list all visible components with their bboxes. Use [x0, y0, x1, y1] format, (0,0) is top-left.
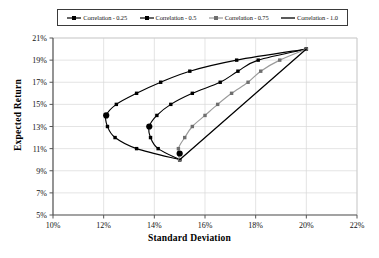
x-axis-tick-label: 10%	[46, 221, 61, 230]
data-point-marker	[183, 136, 186, 139]
chart-container: 5%7%9%11%13%15%17%19%21%10%12%14%16%18%2…	[0, 0, 379, 258]
x-axis-tick-label: 20%	[299, 221, 314, 230]
data-point-marker	[219, 81, 222, 84]
data-point-marker	[155, 114, 158, 117]
legend-item-0[interactable]: Correlation - 0.25	[67, 14, 127, 22]
data-point-marker	[156, 147, 159, 150]
legend-item-2[interactable]: Correlation - 0.75	[209, 14, 269, 22]
y-axis-tick-label: 7%	[36, 189, 47, 198]
y-axis-tick-label: 21%	[32, 34, 47, 43]
y-axis-title: Expected Return	[13, 45, 23, 185]
legend-label-1: Correlation - 0.5	[156, 14, 197, 21]
x-axis-tick-label: 16%	[198, 221, 213, 230]
x-axis-tick-label: 18%	[248, 221, 263, 230]
y-axis-tick-label: 19%	[32, 56, 47, 65]
legend-swatch-0	[67, 14, 81, 22]
y-axis-tick-label: 15%	[32, 100, 47, 109]
data-point-marker	[159, 81, 162, 84]
chart-legend: Correlation - 0.25 Correlation - 0.5 Cor…	[57, 9, 348, 26]
y-axis-tick-label: 5%	[36, 211, 47, 220]
data-point-marker	[216, 103, 219, 106]
x-axis-tick-label: 14%	[147, 221, 162, 230]
data-point-marker	[203, 114, 206, 117]
data-point-marker	[230, 92, 233, 95]
highlight-point-marker	[146, 123, 152, 129]
legend-swatch-1	[140, 14, 154, 22]
data-point-marker	[259, 69, 262, 72]
legend-swatch-3	[281, 14, 295, 22]
legend-swatch-2	[209, 14, 223, 22]
data-point-marker	[246, 81, 249, 84]
data-point-marker	[257, 58, 260, 61]
convergence-marker	[177, 150, 183, 156]
data-point-marker	[135, 147, 138, 150]
legend-label-2: Correlation - 0.75	[225, 14, 269, 21]
data-point-marker	[135, 92, 138, 95]
data-point-marker	[106, 125, 109, 128]
x-axis-tick-label: 12%	[96, 221, 111, 230]
grid-lines	[53, 38, 357, 215]
data-point-marker	[149, 136, 152, 139]
data-point-marker	[113, 136, 116, 139]
data-point-marker	[177, 147, 180, 150]
highlight-point-marker	[103, 112, 109, 118]
data-point-marker	[191, 125, 194, 128]
data-point-marker	[278, 58, 281, 61]
data-point-marker	[115, 103, 118, 106]
data-point-marker	[191, 92, 194, 95]
x-axis-title: Standard Deviation	[0, 233, 379, 243]
legend-label-3: Correlation - 1.0	[297, 14, 338, 21]
legend-item-1[interactable]: Correlation - 0.5	[140, 14, 197, 22]
y-axis-tick-label: 9%	[36, 167, 47, 176]
y-axis-tick-label: 17%	[32, 78, 47, 87]
data-point-marker	[169, 103, 172, 106]
y-axis-tick-label: 11%	[33, 145, 48, 154]
data-point-marker	[235, 58, 238, 61]
x-axis-tick-label: 22%	[350, 221, 365, 230]
y-axis-tick-label: 13%	[32, 123, 47, 132]
legend-label-0: Correlation - 0.25	[83, 14, 127, 21]
legend-item-3[interactable]: Correlation - 1.0	[281, 14, 338, 22]
data-point-marker	[236, 69, 239, 72]
efficient-frontier-plot: 5%7%9%11%13%15%17%19%21%10%12%14%16%18%2…	[0, 0, 379, 258]
data-point-marker	[188, 69, 191, 72]
